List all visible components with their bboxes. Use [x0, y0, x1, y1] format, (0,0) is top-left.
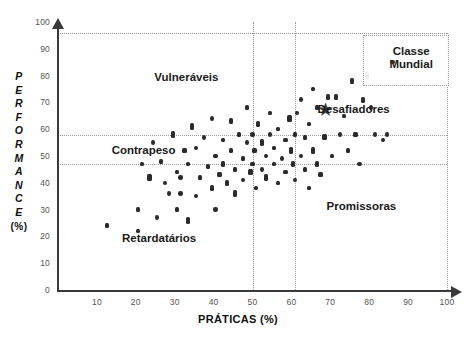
data-point — [260, 167, 264, 172]
data-point — [225, 180, 229, 186]
x-axis-arrow — [451, 286, 462, 298]
y-axis-tick-label: 100 — [26, 17, 50, 27]
data-point — [293, 132, 297, 137]
data-point — [175, 170, 179, 175]
y-axis-tick-label: 50 — [26, 151, 50, 161]
data-point — [287, 115, 291, 121]
data-point — [283, 138, 287, 143]
y-axis-label-letter: A — [6, 165, 32, 179]
y-axis-arrow — [52, 18, 64, 29]
data-point — [346, 148, 350, 153]
data-point — [254, 186, 258, 191]
data-point — [221, 138, 225, 143]
data-point — [186, 217, 190, 223]
y-axis-label-letter: F — [6, 111, 32, 125]
data-point — [186, 162, 190, 167]
data-point — [194, 194, 198, 199]
gridline-vertical — [295, 22, 296, 290]
data-point — [299, 97, 303, 102]
y-axis-tick-label: 20 — [26, 231, 50, 241]
data-point — [245, 105, 249, 110]
data-point — [315, 161, 319, 167]
data-point — [182, 148, 186, 153]
x-axis-tick-label: 30 — [163, 297, 187, 307]
quadrant-label-desafiadores: Desafiadores — [318, 103, 390, 115]
data-point — [167, 191, 171, 196]
x-axis-label: PRÁTICAS (%) — [0, 313, 476, 325]
data-point — [299, 154, 303, 159]
quadrant-label-contrapeso: Contrapeso — [112, 144, 176, 156]
quadrant-label-retardatrios: Retardatários — [122, 232, 196, 244]
y-axis-label-letter: E — [6, 84, 32, 98]
data-point — [264, 154, 268, 159]
data-point — [289, 147, 293, 153]
data-point — [248, 169, 252, 175]
data-point — [252, 148, 256, 153]
classe-mundial-label-line: Mundial — [379, 58, 443, 71]
data-point — [350, 78, 354, 84]
data-point — [307, 186, 311, 191]
data-point — [213, 207, 217, 212]
gridline-vertical — [253, 22, 254, 290]
data-point — [206, 164, 210, 169]
data-point — [241, 178, 245, 183]
y-axis-tick-label: 10 — [26, 258, 50, 268]
data-point — [163, 181, 167, 186]
data-point — [291, 161, 295, 167]
data-point — [303, 167, 307, 172]
data-point — [229, 148, 233, 153]
x-axis-tick-label: 80 — [357, 297, 381, 307]
x-axis-tick-label: 60 — [279, 297, 303, 307]
data-point — [229, 118, 233, 124]
data-point — [381, 138, 385, 143]
data-point — [233, 167, 237, 172]
x-axis-tick-label: 100 — [435, 297, 459, 307]
data-point — [217, 172, 221, 177]
y-axis-tick-label: 80 — [26, 71, 50, 81]
x-axis-tick-label: 20 — [124, 297, 148, 307]
data-point — [268, 132, 272, 137]
data-point — [373, 132, 377, 137]
data-point — [250, 162, 254, 167]
data-point — [280, 156, 284, 161]
data-point — [233, 190, 237, 196]
data-point — [260, 139, 264, 145]
y-axis-label-letter: R — [6, 138, 32, 152]
data-point — [268, 111, 272, 116]
data-point — [194, 146, 198, 151]
data-point — [385, 132, 389, 137]
data-point — [237, 132, 241, 137]
data-point — [256, 121, 260, 127]
data-point — [202, 135, 206, 140]
x-axis-tick-label: 10 — [85, 297, 109, 307]
data-point — [293, 178, 297, 183]
data-point — [241, 156, 245, 161]
data-point — [303, 135, 307, 140]
data-point — [357, 162, 361, 167]
scatter-chart: PERFORMANCE(%) PRÁTICAS (%) 010203040506… — [0, 0, 476, 343]
data-point — [159, 159, 163, 164]
data-point — [250, 132, 254, 137]
data-point — [210, 116, 214, 121]
x-axis-tick-label: 50 — [241, 297, 265, 307]
data-point — [318, 172, 322, 177]
data-point — [272, 146, 276, 151]
classe-mundial-label: ClasseMundial — [379, 45, 443, 70]
data-point — [330, 154, 334, 159]
data-point — [210, 185, 214, 191]
data-point — [334, 94, 338, 100]
y-axis-tick-label: 0 — [26, 285, 50, 295]
y-axis-tick-label: 90 — [26, 44, 50, 54]
data-point — [307, 122, 311, 127]
y-axis-tick-label: 60 — [26, 124, 50, 134]
data-point — [171, 131, 175, 137]
data-point — [338, 132, 342, 137]
quadrant-label-vulnerveis: Vulneráveis — [154, 71, 218, 83]
x-axis-tick-label: 90 — [396, 297, 420, 307]
x-axis-tick-label: 40 — [202, 297, 226, 307]
y-axis-tick-label: 70 — [26, 97, 50, 107]
y-axis-tick-label: 30 — [26, 205, 50, 215]
data-point — [155, 215, 159, 220]
data-point — [147, 174, 151, 180]
data-point — [361, 97, 365, 103]
